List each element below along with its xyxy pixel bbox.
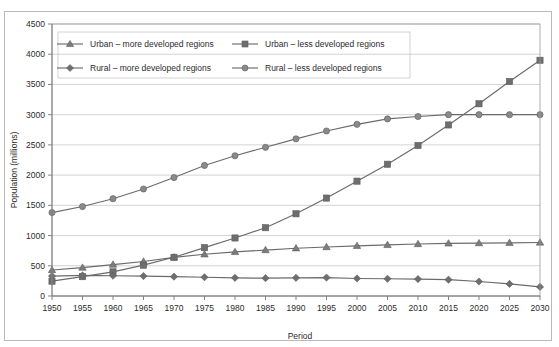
data-point-circle [242,65,248,71]
data-point-circle [140,186,146,192]
y-tick-label: 4500 [26,19,45,29]
x-tick-label: 2020 [470,303,489,313]
y-tick-label: 1500 [26,200,45,210]
data-point-square [354,178,360,184]
y-tick-label: 500 [31,261,45,271]
y-tick-label: 0 [40,291,45,301]
x-tick-label: 2015 [439,303,458,313]
x-tick-label: 1970 [165,303,184,313]
y-tick-label: 1000 [26,231,45,241]
x-tick-label: 2025 [500,303,519,313]
data-point-diamond [201,274,208,281]
data-point-diamond [414,275,421,282]
x-axis-tick-labels: 1950195519601965197019751980198519901995… [43,303,550,313]
legend-entry-2: Rural – more developed regions [57,63,211,73]
data-point-square [445,122,451,128]
data-point-circle [415,113,421,119]
legend-label: Rural – more developed regions [90,63,211,73]
x-tick-label: 1955 [73,303,92,313]
data-point-square [476,101,482,107]
legend-entry-1: Urban – less developed regions [232,39,385,49]
data-point-diamond [231,274,238,281]
data-point-diamond [67,65,74,72]
data-point-circle [506,112,512,118]
x-tick-label: 2005 [378,303,397,313]
y-tick-label: 2500 [26,140,45,150]
x-tick-label: 2000 [348,303,367,313]
x-tick-label: 1985 [256,303,275,313]
data-point-diamond [475,278,482,285]
series-line [52,115,540,213]
data-point-square [140,262,146,268]
y-tick-label: 4000 [26,49,45,59]
x-tick-label: 1965 [134,303,153,313]
data-point-circle [171,174,177,180]
y-tick-label: 3500 [26,79,45,89]
data-point-diamond [140,272,147,279]
data-point-circle [384,116,390,122]
data-point-diamond [262,275,269,282]
series-0 [48,239,543,273]
legend-label: Rural – less developed regions [265,63,382,73]
chart-legend: Urban – more developed regionsUrban – le… [57,32,410,78]
data-point-diamond [170,273,177,280]
data-point-square [506,78,512,84]
data-point-circle [110,196,116,202]
y-axis-title: Population (millions) [9,132,19,209]
data-point-circle [323,128,329,134]
data-series-group [48,57,543,290]
data-point-square [242,41,248,47]
data-point-diamond [292,274,299,281]
data-point-square [201,245,207,251]
series-2 [48,272,543,291]
series-3 [49,112,543,216]
data-point-square [323,195,329,201]
data-point-diamond [506,280,513,287]
data-point-circle [293,136,299,142]
data-point-diamond [353,275,360,282]
data-point-diamond [384,275,391,282]
data-point-circle [232,153,238,159]
data-point-square [384,161,390,167]
legend-entry-0: Urban – more developed regions [57,39,214,49]
x-tick-label: 1980 [226,303,245,313]
x-tick-label: 1995 [317,303,336,313]
x-tick-label: 1950 [43,303,62,313]
data-point-circle [201,162,207,168]
x-tick-label: 1975 [195,303,214,313]
legend-label: Urban – more developed regions [90,39,214,49]
data-point-circle [445,112,451,118]
y-axis-tick-labels: 050010001500200025003000350040004500 [26,19,45,301]
x-axis-title: Period [288,331,313,341]
data-point-circle [262,144,268,150]
data-point-circle [476,112,482,118]
population-line-chart: 050010001500200025003000350040004500 195… [0,0,559,347]
data-point-square [262,225,268,231]
legend-entry-3: Rural – less developed regions [232,63,382,73]
data-point-diamond [323,274,330,281]
y-tick-label: 2000 [26,170,45,180]
data-point-square [171,254,177,260]
data-point-circle [79,203,85,209]
legend-label: Urban – less developed regions [265,39,385,49]
x-tick-label: 1960 [104,303,123,313]
y-tick-label: 3000 [26,110,45,120]
data-point-square [293,211,299,217]
data-point-diamond [445,276,452,283]
data-point-square [415,142,421,148]
data-point-square [232,235,238,241]
x-tick-label: 2030 [531,303,550,313]
x-tick-label: 2010 [409,303,428,313]
x-tick-label: 1990 [287,303,306,313]
data-point-circle [354,121,360,127]
